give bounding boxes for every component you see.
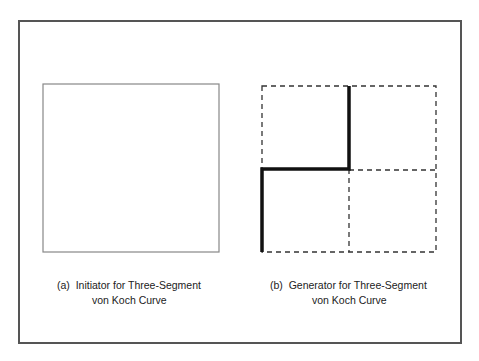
caption-a-line1: (a) Initiator for Three-Segment	[57, 279, 201, 291]
caption-b: (b) Generator for Three-Segment von Koch…	[270, 278, 427, 308]
initiator-square	[43, 84, 219, 252]
caption-a-line2: von Koch Curve	[57, 293, 201, 308]
caption-a: (a) Initiator for Three-Segment von Koch…	[57, 278, 201, 308]
caption-b-line1: (b) Generator for Three-Segment	[270, 279, 427, 291]
caption-b-line2: von Koch Curve	[270, 293, 427, 308]
generator-path	[262, 86, 349, 252]
